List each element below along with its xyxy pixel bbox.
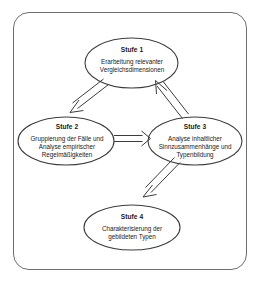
edge-stufe3-to-stufe1 [156, 81, 189, 119]
node-stufe2-ellipse [18, 117, 114, 165]
edge-stufe3-to-stufe4 [143, 158, 180, 198]
edge-stufe2-to-stufe3 [114, 131, 151, 146]
node-stufe3-ellipse [148, 117, 242, 165]
node-stufe1-ellipse [85, 38, 178, 88]
diagram-shapes-layer [0, 0, 262, 284]
node-stufe4-ellipse [84, 205, 180, 250]
diagram-canvas: Stufe 1 Erarbeitung relevanter Vergleich… [0, 0, 262, 284]
edge-stufe1-to-stufe2 [70, 79, 109, 113]
